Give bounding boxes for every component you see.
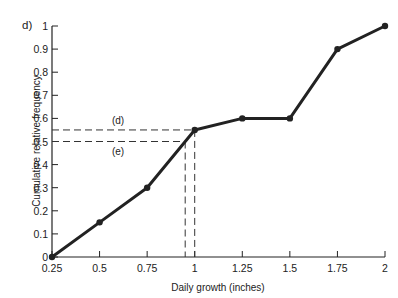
x-tick-label: 1 [192, 262, 198, 274]
data-point [144, 185, 150, 191]
y-tick-label: 0.1 [33, 228, 48, 240]
reference-dashed-lines: (d)(e) [52, 115, 195, 257]
data-point [96, 219, 102, 225]
annotation-label: (d) [112, 115, 124, 126]
y-tick-label: 1 [42, 20, 48, 32]
x-tick-label: 1.5 [283, 262, 298, 274]
x-axis-title: Daily growth (inches) [171, 282, 264, 293]
data-point [49, 254, 55, 260]
y-axis-title: Cumulative relative frequency [31, 75, 42, 207]
x-tick-label: 2 [382, 262, 388, 274]
data-point [382, 23, 388, 29]
data-point [334, 46, 340, 52]
x-axis: 0.250.50.7511.251.51.752 [42, 251, 388, 274]
x-tick-label: 1.25 [232, 262, 253, 274]
annotation-label: (e) [112, 146, 124, 157]
x-tick-label: 0.25 [42, 262, 63, 274]
data-point [192, 127, 198, 133]
data-point [287, 115, 293, 121]
x-tick-label: 1.75 [327, 262, 348, 274]
panel-label: d) [22, 19, 32, 31]
x-tick-label: 0.75 [137, 262, 158, 274]
y-tick-label: 0.9 [33, 43, 48, 55]
data-point [239, 115, 245, 121]
x-tick-label: 0.5 [92, 262, 107, 274]
cumulative-frequency-chart: d) 00.10.20.30.40.50.60.70.80.91 0.250.5… [0, 0, 398, 298]
